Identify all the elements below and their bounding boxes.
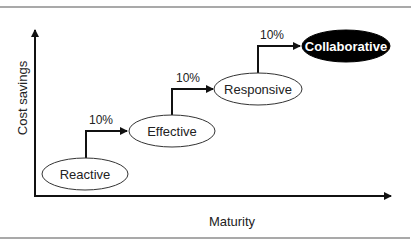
- stage-label: Responsive: [224, 82, 292, 97]
- stage-reactive: Reactive: [42, 158, 128, 190]
- stage-label: Reactive: [60, 167, 111, 182]
- stage-label: Effective: [147, 124, 197, 139]
- step-label-1: 10%: [89, 113, 113, 127]
- stage-responsive: Responsive: [214, 73, 302, 105]
- stage-label: Collaborative: [305, 39, 387, 54]
- y-axis-label: Cost savings: [15, 60, 30, 135]
- stage-effective: Effective: [129, 115, 215, 147]
- step-label-3: 10%: [260, 28, 284, 42]
- stage-collaborative: Collaborative: [302, 30, 390, 62]
- step-label-2: 10%: [176, 71, 200, 85]
- step-arrow-2: [172, 89, 213, 115]
- step-arrow-3: [258, 46, 300, 73]
- step-arrow-1: [86, 131, 127, 158]
- x-axis-label: Maturity: [209, 214, 256, 229]
- maturity-diagram: Cost savings Maturity 10% 10% 10% Reacti…: [0, 0, 417, 249]
